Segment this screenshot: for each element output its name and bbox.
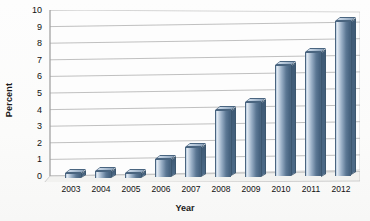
bar-side [231,107,236,176]
y-tick-label: 2 [22,139,42,147]
bar [275,65,291,176]
x-tick-label: 2011 [296,184,326,194]
y-tick-label: 9 [22,23,42,31]
bar-front [95,171,111,178]
x-tick-label: 2009 [236,184,266,194]
y-tick-label: 7 [22,56,42,64]
x-tick-label: 2007 [176,184,206,194]
bar [185,147,201,177]
bar-front [275,65,291,176]
x-axis-title: Year [0,203,370,213]
x-tick-label: 2006 [146,184,176,194]
bar-side [291,62,296,176]
bar-chart: Percent Year 012345678910 20032004200520… [0,0,370,221]
y-tick-label: 3 [22,122,42,130]
bar [305,52,321,177]
bar-front [245,102,261,177]
y-tick-label: 5 [22,89,42,97]
bar-front [125,173,141,178]
x-tick-label: 2008 [206,184,236,194]
bar [335,21,351,175]
y-tick-label: 6 [22,72,42,80]
bar-front [185,147,201,177]
bar-side [261,99,266,177]
bar-front [305,52,321,177]
bar [245,102,261,177]
bar-front [65,173,81,178]
bar [65,173,81,178]
bar [95,171,111,178]
bar-front [215,110,231,176]
bar [125,173,141,178]
bar-series [44,10,360,182]
y-axis-tick-labels: 012345678910 [20,0,42,221]
bar-side [321,49,326,176]
bar-side [351,18,356,175]
bar-side [201,144,206,177]
y-tick-label: 10 [22,6,42,14]
x-tick-label: 2010 [266,184,296,194]
x-axis-tick-labels: 2003200420052006200720082009201020112012 [44,184,360,198]
bar-side [171,156,176,177]
bar [215,110,231,176]
plot-area [44,10,360,182]
y-axis-title: Percent [4,70,14,130]
y-tick-label: 0 [22,172,42,180]
bar [155,159,171,177]
y-tick-label: 8 [22,39,42,47]
bar-front [335,21,351,175]
bar-front [155,159,171,177]
x-tick-label: 2003 [56,184,86,194]
x-tick-label: 2012 [326,184,356,194]
x-tick-label: 2005 [116,184,146,194]
y-tick-label: 1 [22,155,42,163]
y-tick-label: 4 [22,106,42,114]
x-tick-label: 2004 [86,184,116,194]
